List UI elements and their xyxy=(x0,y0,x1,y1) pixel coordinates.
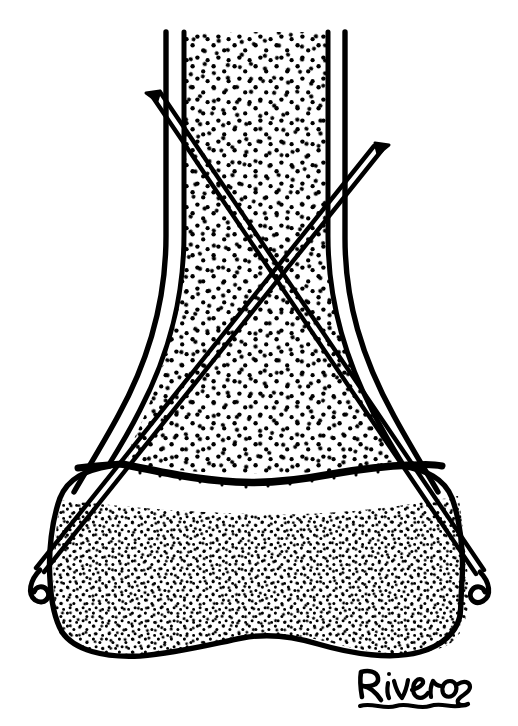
physis-right-segment xyxy=(412,464,442,466)
figure-root: Crossed Kirschner wire fixation of a dis… xyxy=(0,0,518,726)
bone-illustration xyxy=(0,0,518,726)
